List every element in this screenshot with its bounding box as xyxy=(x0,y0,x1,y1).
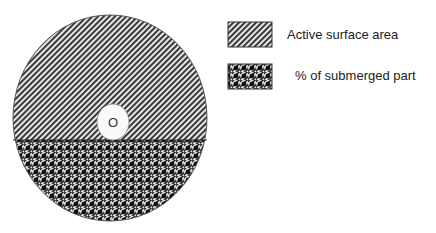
disc: O xyxy=(0,0,220,233)
legend-swatch-active-surface xyxy=(228,22,272,47)
submerged-region xyxy=(0,140,220,233)
legend-label-submerged: % of submerged part xyxy=(295,68,416,83)
center-label: O xyxy=(108,115,118,130)
legend-swatch-submerged xyxy=(228,64,272,89)
legend xyxy=(228,22,272,89)
legend-label-active-surface: Active surface area xyxy=(287,27,398,42)
